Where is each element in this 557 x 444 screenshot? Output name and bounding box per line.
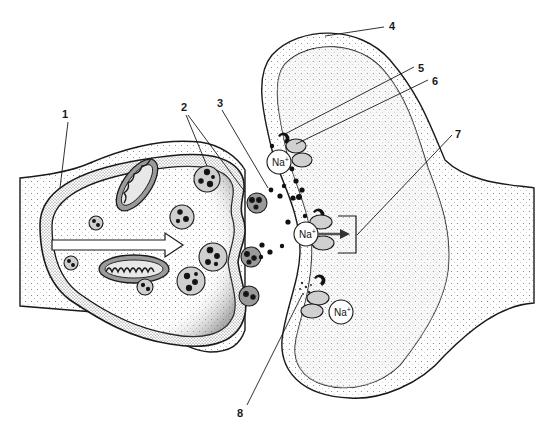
label-7: 7 <box>455 128 461 140</box>
label-1: 1 <box>62 108 68 120</box>
synapse-illustration: Na+ Na+ Na+ <box>0 0 557 444</box>
label-6: 6 <box>432 75 438 87</box>
postsynaptic-dendrite <box>262 33 534 398</box>
label-4: 4 <box>389 20 395 32</box>
label-3: 3 <box>217 97 223 109</box>
label-2: 2 <box>181 101 187 113</box>
mitochondrion-lower <box>99 255 169 283</box>
label-5: 5 <box>418 62 424 74</box>
label-8: 8 <box>237 407 243 419</box>
synapse-diagram: Na+ Na+ Na+ 1 2 3 4 5 6 7 8 <box>0 0 557 444</box>
